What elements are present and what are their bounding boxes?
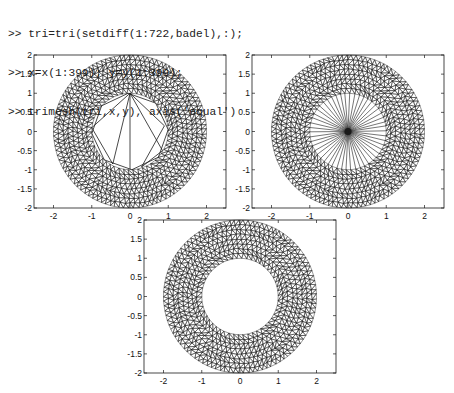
y-tick-label: -2 (242, 203, 250, 213)
y-tick-label: -0.5 (127, 311, 142, 321)
y-tick-label: 0.5 (20, 107, 32, 117)
console-line-1: >> tri=tri(setdiff(1:722,badel),:); (8, 28, 243, 41)
y-tick-label: 1.5 (130, 234, 142, 244)
prompt: >> (8, 28, 21, 40)
mesh-plot-hole-diagonals: -2-101221.510.50-0.5-1-1.5-2 (0, 52, 236, 224)
y-tick-label: -1.5 (127, 349, 142, 359)
y-tick-label: 0 (245, 127, 250, 137)
y-tick-label: 1 (137, 253, 142, 263)
y-tick-label: -0.5 (17, 146, 32, 156)
y-tick-label: -1 (24, 165, 32, 175)
y-tick-label: 0.5 (238, 107, 250, 117)
y-tick-label: 0.5 (130, 272, 142, 282)
x-tick-label: 2 (422, 211, 427, 221)
y-tick-label: -2 (134, 368, 142, 378)
y-tick-label: -2 (24, 203, 32, 213)
y-tick-label: 1.5 (238, 69, 250, 79)
mesh-svg: -2-101221.510.50-0.5-1-1.5-2 (218, 52, 454, 224)
x-tick-label: 0 (238, 376, 243, 386)
hole-spurious-triangles (92, 93, 168, 169)
x-tick-label: 0 (346, 211, 351, 221)
y-tick-label: 2 (137, 215, 142, 225)
y-tick-label: 2 (27, 50, 32, 60)
mesh-svg: -2-101221.510.50-0.5-1-1.5-2 (0, 52, 236, 224)
x-tick-label: 1 (384, 211, 389, 221)
y-tick-label: -1 (242, 165, 250, 175)
y-tick-label: 0 (27, 127, 32, 137)
y-tick-label: 2 (245, 50, 250, 60)
fan-center (345, 128, 352, 135)
y-tick-label: -1.5 (17, 184, 32, 194)
x-tick-label: -2 (50, 211, 58, 221)
x-tick-label: 1 (276, 376, 281, 386)
x-tick-label: -1 (88, 211, 96, 221)
x-tick-label: -1 (198, 376, 206, 386)
y-tick-label: -1.5 (235, 184, 250, 194)
mesh-plot-clean: -2-101221.510.50-0.5-1-1.5-2 (110, 217, 346, 389)
command-text: tri=tri(setdiff(1:722,badel),:); (28, 28, 243, 40)
y-tick-label: 1 (245, 88, 250, 98)
y-tick-label: 1.5 (20, 69, 32, 79)
x-tick-label: -2 (160, 376, 168, 386)
y-tick-label: 1 (27, 88, 32, 98)
y-tick-label: -0.5 (235, 146, 250, 156)
x-tick-label: 2 (314, 376, 319, 386)
y-tick-label: 0 (137, 292, 142, 302)
mesh-plot-hole-fan: -2-101221.510.50-0.5-1-1.5-2 (218, 52, 454, 224)
mesh-svg: -2-101221.510.50-0.5-1-1.5-2 (110, 217, 346, 389)
y-tick-label: -1 (134, 330, 142, 340)
triangle-mesh (164, 220, 317, 373)
